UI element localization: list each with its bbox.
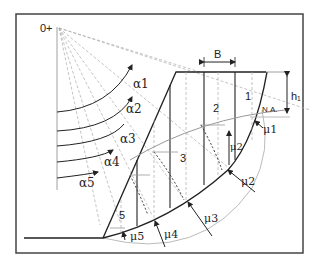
origin-label: 0+ xyxy=(40,22,53,34)
slice-label-1: 1 xyxy=(245,90,251,102)
slice-label-2: 2 xyxy=(213,102,219,114)
neutral-axis-label: N.A. xyxy=(262,105,278,114)
thrust-lines xyxy=(130,125,222,215)
alpha-2-label: α2 xyxy=(126,102,142,116)
mu-2-label: μ2 xyxy=(241,175,255,188)
mu-5-label: μ5 xyxy=(130,230,144,243)
mu-4-label: μ4 xyxy=(164,228,178,241)
mu-3-label: μ3 xyxy=(204,212,218,225)
height-label: h₁ xyxy=(291,90,301,102)
alpha-5-label: α5 xyxy=(79,176,95,190)
mu-1-label: μ1 xyxy=(263,123,277,136)
width-label: B xyxy=(214,48,221,60)
alpha-arcs xyxy=(57,65,132,178)
alpha-4-label: α4 xyxy=(104,155,120,169)
mu-2-inner-label: μ2 xyxy=(230,141,243,152)
slice-label-3: 3 xyxy=(180,152,186,164)
alpha-1-label: α1 xyxy=(133,77,149,91)
slope-diagram: 0+ B h₁ N.A. 1 2 3 5 α1 α2 α3 α4 α5 μ1 μ… xyxy=(0,0,316,265)
slice-label-5: 5 xyxy=(119,209,125,221)
alpha-3-label: α3 xyxy=(120,132,136,146)
neutral-axis-line xyxy=(130,110,285,160)
